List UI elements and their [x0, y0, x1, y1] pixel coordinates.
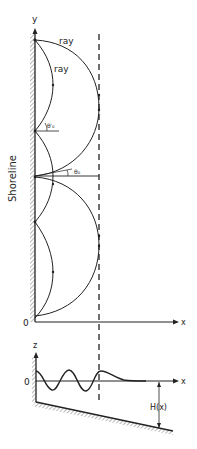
angle-arc-2: [67, 170, 68, 176]
angle-label-theta: θ₀: [74, 168, 81, 175]
large-ray-arc-2: [35, 177, 99, 316]
large-ray-arc-1: [35, 40, 99, 176]
small-ray-arc-2: [35, 131, 53, 222]
depth-label: H(x): [150, 403, 167, 412]
z-axis-arrow-icon: [34, 352, 39, 358]
small-ray-arc-1: [35, 40, 53, 131]
x-axis-arrow-icon-lower: [173, 379, 179, 384]
bottom-panel: z x 0 H(x): [24, 341, 186, 435]
y-axis-arrow-icon: [33, 28, 38, 34]
shoreline-label: Shoreline: [7, 155, 18, 202]
x-axis-label-lower: x: [181, 377, 186, 386]
ray-label-outer: ray: [59, 36, 74, 46]
z-axis-label: z: [33, 341, 37, 350]
depth-arrow-up-icon: [157, 382, 161, 387]
x-axis-label: x: [181, 318, 186, 327]
origin-label: 0: [23, 318, 29, 328]
ray-diagram-figure: y x 0 Shoreline: [0, 0, 197, 449]
small-ray-arc-3: [35, 222, 53, 318]
ray-label-inner: ray: [54, 64, 69, 74]
y-axis-label: y: [32, 14, 38, 24]
x-axis-arrow-icon: [173, 320, 179, 325]
ray-tangent-line: [35, 169, 72, 176]
zero-label: 0: [24, 377, 30, 387]
angle-label-theta-prime: θ′₀: [47, 122, 55, 129]
